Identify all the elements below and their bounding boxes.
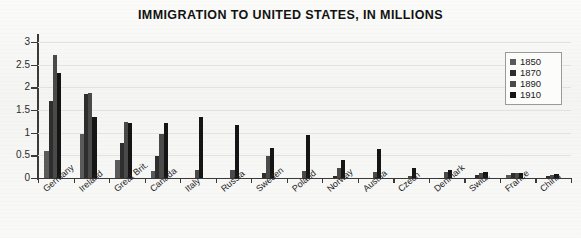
legend-swatch-icon bbox=[510, 70, 516, 76]
x-tick-mark bbox=[464, 178, 465, 183]
x-tick-mark bbox=[429, 178, 430, 183]
y-tick-mark bbox=[31, 155, 38, 156]
x-tick-mark bbox=[535, 178, 536, 183]
y-tick-label: 3 bbox=[4, 36, 30, 47]
y-tick-label: 2.5 bbox=[4, 59, 30, 70]
bar-group[interactable] bbox=[187, 42, 204, 178]
x-tick-mark bbox=[251, 178, 252, 183]
y-tick-mark bbox=[31, 87, 38, 88]
plot-area bbox=[38, 42, 571, 178]
x-tick-mark bbox=[38, 178, 39, 183]
y-tick-mark bbox=[31, 133, 38, 134]
legend-label: 1910 bbox=[520, 89, 541, 100]
legend-item[interactable]: 1910 bbox=[510, 89, 557, 100]
legend-item[interactable]: 1850 bbox=[510, 56, 557, 67]
bar-group[interactable] bbox=[471, 42, 488, 178]
y-tick-label: 1.5 bbox=[4, 104, 30, 115]
x-tick-mark bbox=[109, 178, 110, 183]
x-tick-mark bbox=[500, 178, 501, 183]
x-tick-mark bbox=[571, 178, 572, 183]
bar-group[interactable] bbox=[222, 42, 239, 178]
legend-item[interactable]: 1890 bbox=[510, 78, 557, 89]
bar-group[interactable] bbox=[400, 42, 417, 178]
y-tick-label: 0.5 bbox=[4, 149, 30, 160]
bar-group[interactable] bbox=[364, 42, 381, 178]
x-tick-mark bbox=[287, 178, 288, 183]
y-tick-mark bbox=[31, 178, 38, 179]
x-tick-mark bbox=[74, 178, 75, 183]
y-tick-mark bbox=[31, 110, 38, 111]
legend-label: 1890 bbox=[520, 78, 541, 89]
bar-group[interactable] bbox=[258, 42, 275, 178]
bar-group[interactable] bbox=[80, 42, 97, 178]
x-tick-mark bbox=[145, 178, 146, 183]
legend-swatch-icon bbox=[510, 92, 516, 98]
bar-group[interactable] bbox=[151, 42, 168, 178]
legend-item[interactable]: 1870 bbox=[510, 67, 557, 78]
bar-group[interactable] bbox=[435, 42, 452, 178]
y-tick-label: 1 bbox=[4, 127, 30, 138]
y-tick-label: 0 bbox=[4, 172, 30, 183]
bar[interactable] bbox=[57, 73, 61, 178]
y-tick-mark bbox=[31, 42, 38, 43]
y-tick-label: 2 bbox=[4, 81, 30, 92]
x-tick-mark bbox=[393, 178, 394, 183]
x-tick-mark bbox=[322, 178, 323, 183]
y-axis-labels: 00.511.522.53 bbox=[0, 0, 30, 238]
bar-group[interactable] bbox=[115, 42, 132, 178]
x-tick-mark bbox=[180, 178, 181, 183]
legend-label: 1870 bbox=[520, 67, 541, 78]
x-tick-mark bbox=[358, 178, 359, 183]
legend-label: 1850 bbox=[520, 56, 541, 67]
chart-legend[interactable]: 1850187018901910 bbox=[505, 52, 562, 105]
chart-title: IMMIGRATION TO UNITED STATES, IN MILLION… bbox=[0, 8, 581, 22]
bar-group[interactable] bbox=[329, 42, 346, 178]
legend-swatch-icon bbox=[510, 81, 516, 87]
y-tick-mark bbox=[31, 65, 38, 66]
legend-swatch-icon bbox=[510, 59, 516, 65]
bar[interactable] bbox=[199, 117, 203, 178]
bar-group[interactable] bbox=[293, 42, 310, 178]
x-tick-mark bbox=[216, 178, 217, 183]
bar-group[interactable] bbox=[44, 42, 61, 178]
